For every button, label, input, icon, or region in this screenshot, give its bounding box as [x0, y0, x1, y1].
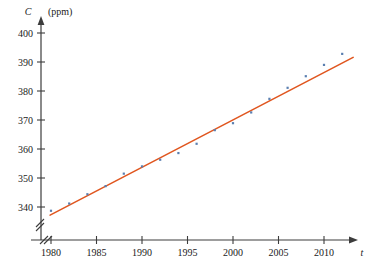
x-tick-label: 2010 [314, 247, 334, 258]
data-point [141, 165, 143, 167]
scatter-plot-canvas: 340350360370380390400 198019851990199520… [0, 0, 373, 269]
y-tick-label: 350 [18, 173, 33, 184]
y-tick-label: 340 [18, 202, 33, 213]
data-point-group [50, 53, 343, 212]
data-point [68, 202, 70, 204]
data-point [196, 143, 198, 145]
y-tick-label: 390 [18, 57, 33, 68]
clipped-header-text [0, 0, 373, 6]
y-axis [38, 16, 45, 240]
y-axis-break-icon [36, 219, 44, 231]
y-tick-label: 370 [18, 115, 33, 126]
x-axis-title: t [361, 247, 364, 258]
y-tick-label: 380 [18, 86, 33, 97]
data-point [250, 111, 252, 113]
regression-line [50, 57, 353, 215]
data-point [50, 210, 52, 212]
y-tick-label: 400 [18, 28, 33, 39]
data-point [323, 64, 325, 66]
x-tick-label: 2005 [269, 247, 289, 258]
chart-figure: 340350360370380390400 198019851990199520… [0, 0, 373, 269]
data-point [159, 159, 161, 161]
x-tick-label: 1990 [132, 247, 152, 258]
data-point [123, 173, 125, 175]
svg-text:(ppm): (ppm) [48, 6, 72, 18]
y-axis-title: C (ppm) [25, 6, 73, 18]
data-point [86, 193, 88, 195]
data-point [105, 185, 107, 187]
svg-text:C: C [25, 6, 32, 17]
data-point [214, 129, 216, 131]
x-tick-label: 1985 [87, 247, 107, 258]
data-point [341, 53, 343, 55]
trendline [50, 57, 353, 215]
x-tick-label: 1995 [178, 247, 198, 258]
data-point [232, 122, 234, 124]
x-tick-group: 1980198519901995200020052010 [41, 236, 334, 258]
x-axis [31, 237, 358, 244]
data-point [305, 75, 307, 77]
x-tick-label: 2000 [223, 247, 243, 258]
x-tick-label: 1980 [41, 247, 61, 258]
data-point [268, 98, 270, 100]
data-point [177, 152, 179, 154]
y-tick-label: 360 [18, 144, 33, 155]
data-point [287, 87, 289, 89]
